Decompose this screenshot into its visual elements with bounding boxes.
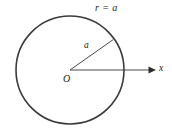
radius-segment (70, 40, 113, 70)
x-axis-label: x (159, 64, 163, 74)
origin-label: O (63, 74, 70, 84)
geometry-diagram-svg (0, 0, 172, 139)
x-axis-arrowhead (149, 67, 157, 74)
circle-equation-label: r = a (95, 3, 118, 13)
radius-length-label: a (84, 41, 89, 51)
figure-container: r = a a O x (0, 0, 172, 139)
